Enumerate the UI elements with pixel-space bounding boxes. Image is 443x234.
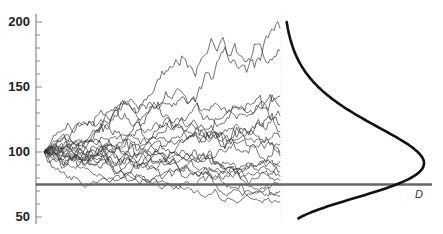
price-paths (44, 22, 280, 203)
barrier-label: D (415, 188, 423, 200)
y-tick-label-150: 150 (8, 79, 30, 94)
density-curve (287, 22, 424, 218)
y-tick-label-50: 50 (16, 209, 30, 224)
y-tick-label-100: 100 (8, 144, 30, 159)
price-path (44, 37, 280, 152)
price-path (44, 148, 280, 184)
y-tick-label-200: 200 (8, 14, 30, 29)
chart-canvas: 200 150 100 50 D (0, 0, 443, 234)
y-axis-ticks (36, 22, 42, 217)
